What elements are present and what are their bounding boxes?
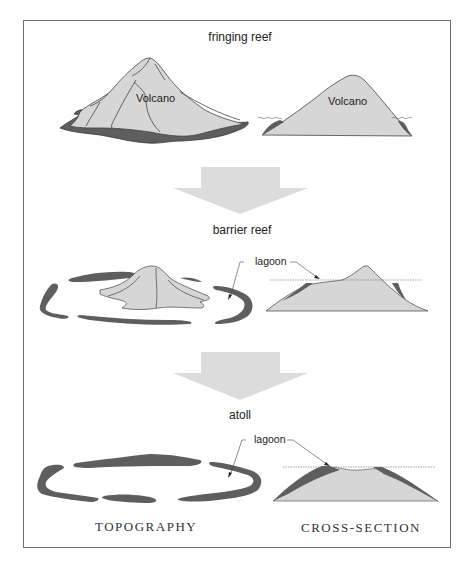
atoll-segment [73, 454, 201, 468]
column-label-topography: TOPOGRAPHY [95, 519, 197, 535]
barrier-reef-segment [69, 272, 136, 282]
lagoon-label-atoll: lagoon [254, 433, 286, 445]
reef-evolution-diagram [0, 0, 467, 575]
atoll-segment [178, 462, 261, 502]
stage-label-atoll: atoll [160, 408, 320, 422]
lagoon-arrowhead-topo-2 [228, 472, 232, 478]
stage-label-fringing-reef: fringing reef [160, 30, 320, 44]
barrier-reef-segment [180, 277, 202, 282]
atoll-segment [37, 465, 98, 502]
atoll-cross-section [273, 440, 438, 501]
atoll-topography [37, 440, 261, 503]
column-label-cross-section: CROSS-SECTION [301, 520, 421, 536]
volcano-label-topography: Volcano [136, 92, 175, 104]
sea-level-left [258, 117, 282, 119]
volcano-section-body-2 [266, 266, 428, 311]
barrier-reef-segment [40, 283, 69, 318]
barrier-reef-segment [213, 286, 253, 324]
lagoon-arrowhead-topo [228, 294, 232, 300]
lagoon-label-barrier: lagoon [255, 255, 287, 267]
stage-label-barrier-reef: barrier reef [162, 223, 322, 237]
atoll-segment [102, 495, 156, 504]
transition-arrow-2 [173, 352, 308, 400]
lagoon-pointer-section [290, 262, 318, 278]
transition-arrow-1 [173, 167, 308, 214]
barrier-reef-segment [77, 315, 191, 325]
barrier-reef-cross-section [266, 262, 428, 311]
barrier-reef-topography [40, 262, 253, 325]
volcano-label-cross-section: Volcano [328, 95, 367, 107]
lagoon-pointer-section-2 [287, 440, 328, 465]
